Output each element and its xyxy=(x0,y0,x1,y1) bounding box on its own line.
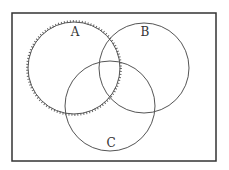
set-a-label: A xyxy=(70,25,80,39)
set-b-label: B xyxy=(141,25,150,39)
set-c-label: C xyxy=(106,136,115,150)
venn-diagram: A B C xyxy=(0,0,229,170)
